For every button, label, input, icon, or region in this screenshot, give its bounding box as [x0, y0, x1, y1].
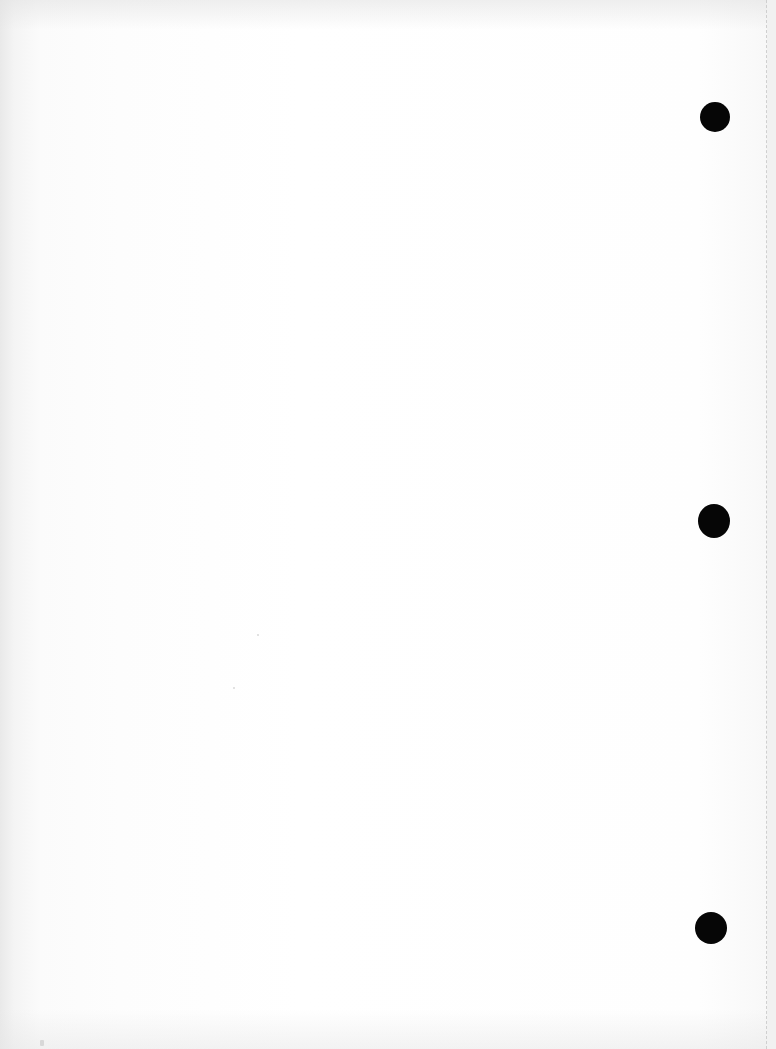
fold-line — [766, 0, 767, 1049]
scan-speck — [40, 1040, 44, 1046]
scanned-page — [0, 0, 776, 1049]
scan-shadow-bottom — [0, 1009, 776, 1049]
punch-hole-top — [700, 102, 730, 132]
punch-hole-bottom — [695, 912, 727, 944]
scan-speck — [257, 634, 259, 636]
page-edge-strip — [767, 0, 776, 1049]
scan-speck — [233, 687, 235, 689]
scan-shadow-top — [0, 0, 776, 30]
punch-hole-middle — [698, 504, 730, 538]
